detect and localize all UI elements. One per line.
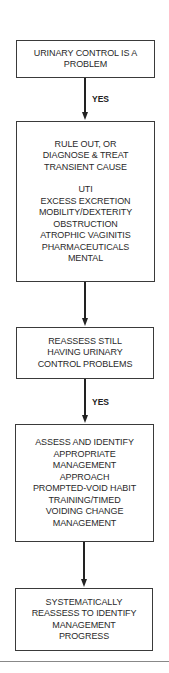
node-rule-out-transient-cause: RULE OUT, OR DIAGNOSE & TREAT TRANSIENT …: [16, 121, 155, 282]
node-text: CONTROL PROBLEMS: [38, 359, 133, 371]
node-text: PROGRESS: [59, 631, 109, 643]
node-text: ASSESS AND IDENTIFY: [35, 437, 134, 449]
cause-item: MENTAL: [68, 253, 103, 265]
cause-item: UTI: [78, 184, 92, 196]
node-text: MANAGEMENT: [53, 518, 117, 530]
cause-item: EXCESS EXCRETION: [41, 196, 131, 208]
node-text: MANAGEMENT: [53, 460, 117, 472]
node-text: APPROPRIATE: [53, 449, 115, 461]
node-assess-management-approach: ASSESS AND IDENTIFY APPROPRIATE MANAGEME…: [15, 424, 154, 542]
node-text: DIAGNOSE & TREAT: [43, 150, 129, 162]
node-text: PROMPTED-VOID HABIT: [33, 483, 136, 495]
arrowhead-icon: [82, 415, 88, 423]
arrowhead-icon: [81, 579, 87, 587]
node-text: REASSESS TO IDENTIFY: [32, 608, 137, 620]
node-urinary-control-problem: URINARY CONTROL IS A PROBLEM: [16, 40, 155, 78]
divider: [0, 661, 169, 662]
node-text: TRAINING/TIMED: [48, 495, 120, 507]
connector-line: [83, 542, 85, 580]
cause-item: MOBILITY/DEXTERITY: [39, 207, 132, 219]
node-text: MANAGEMENT: [52, 620, 116, 632]
node-text: APPROACH: [60, 472, 110, 484]
node-text: URINARY CONTROL IS A: [34, 48, 137, 60]
arrowhead-icon: [82, 318, 88, 326]
node-text: VOIDING CHANGE: [46, 506, 124, 518]
arrowhead-icon: [82, 112, 88, 120]
node-text: TRANSIENT CAUSE: [44, 162, 127, 174]
cause-item: PHARMACEUTICALS: [42, 242, 130, 254]
cause-item: ATROPHIC VAGINITIS: [40, 230, 130, 242]
connector-line: [84, 379, 86, 416]
edge-label-yes: YES: [92, 397, 109, 407]
connector-line: [84, 282, 86, 319]
node-systematically-reassess: SYSTEMATICALLY REASSESS TO IDENTIFY MANA…: [15, 588, 153, 651]
node-text: REASSESS STILL: [48, 336, 122, 348]
node-text: SYSTEMATICALLY: [46, 597, 123, 609]
node-text: PROBLEM: [64, 59, 107, 71]
node-text: RULE OUT, OR: [55, 139, 117, 151]
edge-label-yes: YES: [92, 94, 109, 104]
node-text: HAVING URINARY: [47, 347, 122, 359]
connector-line: [84, 78, 86, 114]
node-reassess-still-problems: REASSESS STILL HAVING URINARY CONTROL PR…: [16, 327, 154, 379]
cause-item: OBSTRUCTION: [53, 219, 117, 231]
